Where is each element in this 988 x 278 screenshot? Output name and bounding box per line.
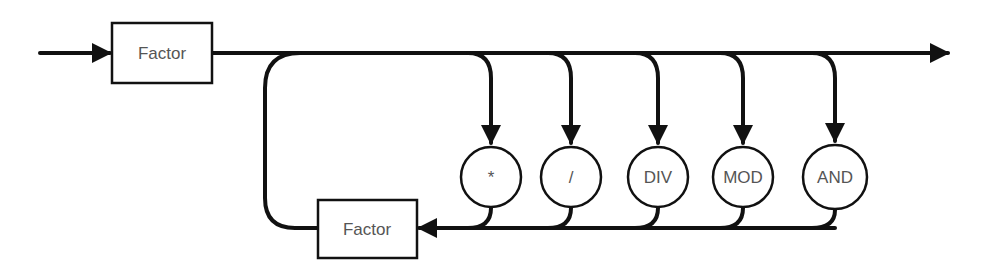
operator-label: DIV (644, 168, 673, 187)
rise-multiply (468, 207, 491, 228)
rise-div (635, 207, 658, 228)
operator-multiply: * (461, 147, 521, 207)
drop-multiply (468, 53, 491, 143)
operator-label: MOD (723, 168, 763, 187)
factor-box-1: Factor (112, 23, 212, 83)
drop-mod (720, 53, 743, 143)
operator-div: DIV (628, 147, 688, 207)
rise-and (812, 209, 835, 228)
operator-and: AND (803, 145, 867, 209)
drop-divide (548, 53, 571, 143)
operator-label: AND (817, 168, 853, 187)
operator-label: * (488, 168, 495, 187)
syntax-diagram: Factor Factor * / DIV MOD AND (0, 0, 988, 278)
loop-back-path (265, 53, 318, 228)
drop-div (635, 53, 658, 143)
rise-divide (548, 207, 571, 228)
factor-label-2: Factor (343, 220, 392, 239)
operator-divide: / (541, 147, 601, 207)
operator-label: / (569, 168, 574, 187)
factor-label-1: Factor (138, 44, 187, 63)
factor-box-2: Factor (318, 200, 417, 258)
operator-mod: MOD (713, 147, 773, 207)
rise-mod (720, 207, 743, 228)
drop-and (812, 53, 835, 141)
